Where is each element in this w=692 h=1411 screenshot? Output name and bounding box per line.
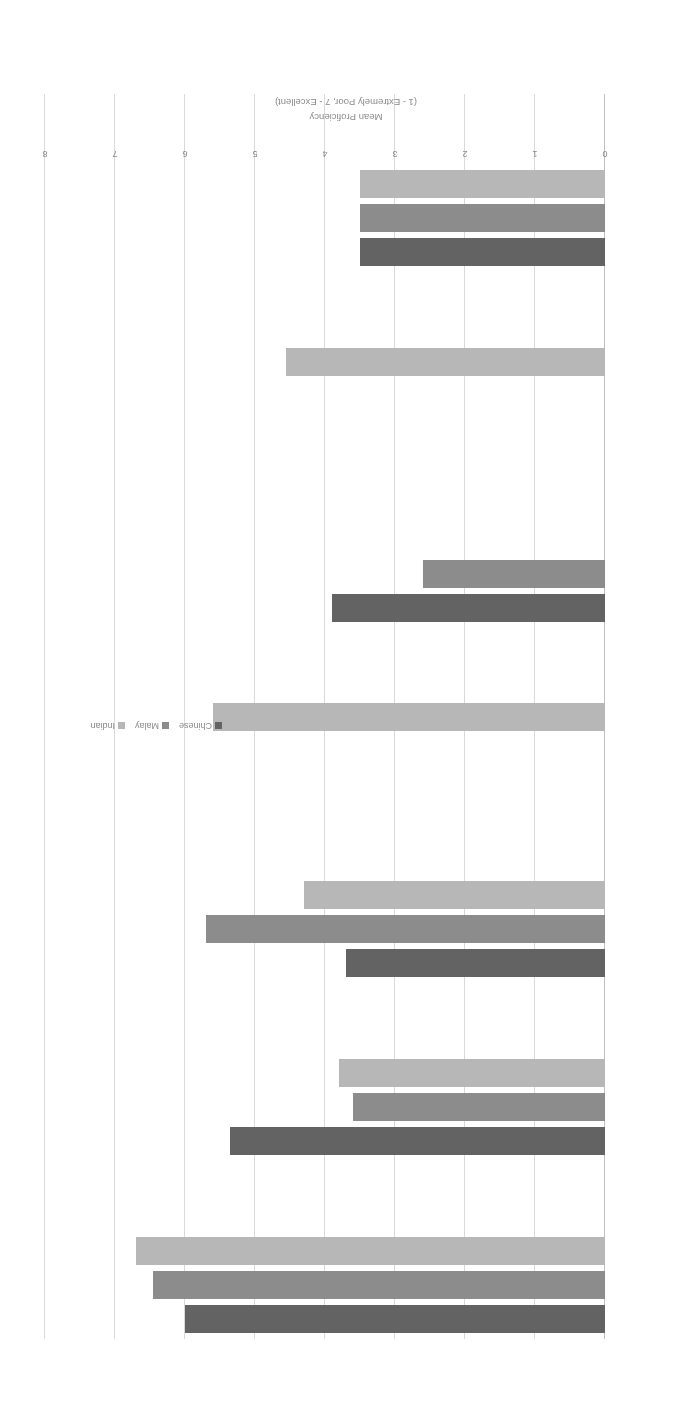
category-label: Mandarin — [0, 1068, 37, 1079]
legend-label: Indian — [90, 721, 115, 731]
legend-swatch-icon — [162, 722, 169, 729]
x-tick-label: 8 — [25, 149, 65, 159]
bar-group: “Dialects” — [45, 450, 605, 628]
bar-malay[interactable] — [360, 204, 605, 232]
x-tick-label: 5 — [235, 149, 275, 159]
legend-item[interactable]: Indian — [90, 721, 125, 731]
legend-item[interactable]: Malay — [135, 721, 169, 731]
x-tick-label: 1 — [515, 149, 555, 159]
bar-group: Mandarin — [45, 983, 605, 1161]
plot-area: EnglishMandarinMalayTamil“Dialects”NTILI… — [45, 94, 605, 1339]
bar-indian[interactable] — [213, 703, 605, 731]
category-label: English — [0, 1246, 37, 1257]
category-label: Malay — [0, 890, 37, 901]
category-label: “Dialects” — [0, 535, 37, 546]
bar-indian[interactable] — [304, 881, 605, 909]
axis-title: Mean Proficiency (1 - Extremely Poor, 7 … — [0, 95, 692, 125]
bar-group: NTIL — [45, 272, 605, 450]
bar-malay[interactable] — [353, 1093, 605, 1121]
x-tick-label: 7 — [95, 149, 135, 159]
axis-title-line-2: (1 - Extremely Poor, 7 - Excellent) — [0, 95, 692, 110]
legend-item[interactable]: Chinese — [179, 721, 222, 731]
bar-chinese[interactable] — [360, 238, 605, 266]
x-tick-label: 2 — [445, 149, 485, 159]
category-label: Interest language — [0, 179, 37, 190]
bar-chinese[interactable] — [346, 949, 605, 977]
axis-title-line-1: Mean Proficiency — [0, 110, 692, 125]
bar-indian[interactable] — [287, 348, 606, 376]
legend-label: Malay — [135, 721, 159, 731]
x-tick-label: 6 — [165, 149, 205, 159]
bar-indian[interactable] — [360, 170, 605, 198]
bar-chinese[interactable] — [185, 1305, 605, 1333]
legend-swatch-icon — [118, 722, 125, 729]
bar-indian[interactable] — [136, 1237, 605, 1265]
x-tick-label: 0 — [585, 149, 625, 159]
category-label: NTIL — [0, 357, 37, 368]
bar-group: English — [45, 1161, 605, 1339]
bar-indian[interactable] — [339, 1059, 605, 1087]
legend-swatch-icon — [215, 722, 222, 729]
bar-malay[interactable] — [154, 1271, 606, 1299]
x-tick-label: 3 — [375, 149, 415, 159]
bar-malay[interactable] — [423, 560, 605, 588]
bar-chinese[interactable] — [332, 594, 605, 622]
chart-figure: EnglishMandarinMalayTamil“Dialects”NTILI… — [0, 0, 692, 1411]
bar-group: Malay — [45, 805, 605, 983]
x-tick-label: 4 — [305, 149, 345, 159]
bar-group: Tamil — [45, 628, 605, 806]
category-label: Tamil — [0, 713, 37, 724]
legend-label: Chinese — [179, 721, 212, 731]
bar-malay[interactable] — [206, 915, 605, 943]
bar-chinese[interactable] — [231, 1127, 606, 1155]
chart-legend: ChineseMalayIndian — [80, 721, 222, 731]
